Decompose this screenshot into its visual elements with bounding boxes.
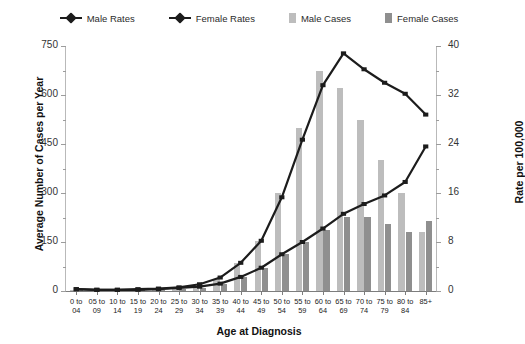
x-tick — [385, 291, 386, 295]
line-marker-icon — [60, 14, 82, 23]
x-axis-title: Age at Diagnosis — [0, 325, 518, 337]
female-rate-point — [135, 288, 140, 292]
legend-label: Female Cases — [397, 13, 458, 24]
female-rate-point — [238, 275, 243, 279]
x-tick — [159, 291, 160, 295]
male-rate-point — [403, 92, 408, 96]
male-rate-point — [259, 239, 264, 243]
female-rate-point — [218, 282, 223, 286]
female-rate-line — [76, 146, 425, 289]
x-tick — [323, 291, 324, 295]
legend-item-female-rates[interactable]: Female Rates — [169, 13, 255, 24]
y-tick-right — [436, 144, 441, 145]
y-tick-right — [436, 193, 441, 194]
x-tick — [405, 291, 406, 295]
x-tick — [200, 291, 201, 295]
female-rate-point — [341, 212, 346, 216]
female-rate-point — [403, 180, 408, 184]
y-tick-right — [436, 95, 441, 96]
y-minor-tick-right — [436, 218, 439, 219]
y-tick-right — [436, 46, 441, 47]
male-rate-point — [341, 51, 346, 55]
male-rate-point — [279, 195, 284, 199]
bar-swatch-icon — [289, 13, 296, 23]
x-tick — [179, 291, 180, 295]
y-tick-label-left: 0 — [18, 284, 58, 295]
y-tick-label-right: 16 — [448, 186, 488, 197]
y-tick-label-right: 24 — [448, 137, 488, 148]
chart-legend: Male Rates Female Rates Male Cases Femal… — [0, 8, 518, 28]
female-rate-point — [361, 202, 366, 206]
y-axis-right-title: Rate per 100,000 — [513, 37, 525, 287]
female-rate-point — [382, 193, 387, 197]
x-axis-line — [65, 291, 437, 292]
x-tick-label: 85+ — [412, 298, 440, 307]
x-tick — [261, 291, 262, 295]
female-rate-point — [279, 252, 284, 256]
male-rate-point — [382, 81, 387, 85]
legend-item-male-rates[interactable]: Male Rates — [60, 13, 135, 24]
female-rate-point — [115, 288, 120, 292]
legend-item-female-cases[interactable]: Female Cases — [385, 13, 458, 24]
y-minor-tick-right — [436, 71, 439, 72]
x-tick — [426, 291, 427, 295]
y-tick-label-right: 0 — [448, 284, 488, 295]
line-marker-icon — [169, 14, 191, 23]
x-tick — [76, 291, 77, 295]
male-rate-point — [423, 113, 428, 117]
female-rate-point — [74, 287, 79, 291]
female-rate-point — [300, 240, 305, 244]
legend-label: Male Rates — [87, 13, 135, 24]
female-rate-point — [156, 287, 161, 291]
x-tick — [344, 291, 345, 295]
y-tick-label-left: 450 — [18, 137, 58, 148]
male-rate-point — [300, 138, 305, 142]
male-rate-point — [320, 83, 325, 87]
y-minor-tick-right — [436, 169, 439, 170]
female-rate-point — [197, 285, 202, 289]
y-tick-label-left: 300 — [18, 186, 58, 197]
plot-area: 0150300450600750 0816243240 0 to 0405 to… — [66, 46, 436, 291]
x-tick — [364, 291, 365, 295]
y-tick-label-right: 40 — [448, 39, 488, 50]
y-tick-label-left: 750 — [18, 39, 58, 50]
female-rate-point — [176, 286, 181, 290]
male-rate-point — [361, 67, 366, 71]
legend-label: Male Cases — [301, 13, 351, 24]
male-rate-point — [238, 261, 243, 265]
legend-label: Female Rates — [196, 13, 255, 24]
y-tick-label-right: 8 — [448, 235, 488, 246]
y-tick-right — [436, 242, 441, 243]
y-tick-right — [436, 291, 441, 292]
bar-swatch-icon — [385, 13, 392, 23]
y-tick-label-right: 32 — [448, 88, 488, 99]
x-tick — [302, 291, 303, 295]
y-tick-left — [61, 291, 66, 292]
x-tick — [282, 291, 283, 295]
y-tick-label-left: 600 — [18, 88, 58, 99]
y-tick-label-left: 150 — [18, 235, 58, 246]
x-tick — [241, 291, 242, 295]
female-rate-point — [423, 144, 428, 148]
male-rate-line — [76, 53, 425, 289]
y-minor-tick-right — [436, 120, 439, 121]
rate-lines-layer — [66, 46, 436, 291]
male-rate-point — [218, 276, 223, 280]
x-tick — [220, 291, 221, 295]
y-axis-left-title: Average Number of Cases per Year — [33, 39, 45, 289]
female-rate-point — [259, 266, 264, 270]
female-rate-point — [94, 288, 99, 292]
y-minor-tick-right — [436, 267, 439, 268]
female-rate-point — [320, 227, 325, 231]
legend-item-male-cases[interactable]: Male Cases — [289, 13, 351, 24]
